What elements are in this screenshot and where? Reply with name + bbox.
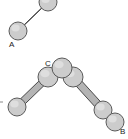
node-highlight (54, 61, 63, 69)
node-circle (52, 58, 72, 78)
chevron-group: C B (0, 58, 125, 136)
node-circle (9, 22, 27, 40)
label-b: B (120, 127, 125, 136)
ball-and-stick-diagram: A (0, 0, 128, 139)
figure-canvas: A (0, 0, 128, 139)
a-terminal-node (9, 22, 27, 40)
node-highlight (10, 101, 18, 108)
a-upper-node (39, 0, 57, 11)
label-c: C (45, 59, 51, 68)
node-highlight (96, 104, 104, 111)
vertex-apex-node (52, 58, 72, 78)
node-highlight (40, 70, 49, 78)
node-circle (8, 98, 26, 116)
left-terminal-node (8, 98, 26, 116)
label-a: A (9, 40, 15, 49)
node-highlight (11, 25, 19, 32)
segment-a-group: A (9, 0, 57, 49)
node-highlight (108, 116, 116, 123)
